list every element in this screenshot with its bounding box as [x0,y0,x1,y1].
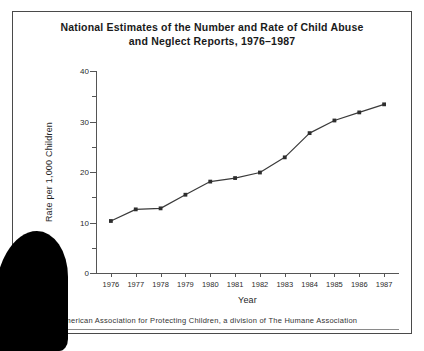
x-tick-label: 1986 [351,280,368,289]
y-tick-label: 20 [80,168,89,177]
chart-title-line-2: and Neglect Reports, 1976–1987 [13,34,411,48]
x-tick [334,273,335,277]
x-tick [235,273,236,277]
data-point [208,180,212,184]
data-point [308,131,312,135]
data-point [134,207,138,211]
x-tick-label: 1984 [301,280,318,289]
x-tick-label: 1977 [127,280,144,289]
source-note: : American Association for Protecting Ch… [55,316,357,325]
x-tick-label: 1978 [152,280,169,289]
data-point [159,206,163,210]
x-tick-label: 1985 [326,280,343,289]
x-tick-label: 1976 [103,280,120,289]
x-tick [384,273,385,277]
x-tick [111,273,112,277]
x-tick-label: 1987 [376,280,393,289]
x-tick [260,273,261,277]
y-axis-title: Rate per 1,000 Children [44,122,54,222]
x-tick [161,273,162,277]
data-point [283,155,287,159]
y-tick-label: 30 [80,117,89,126]
x-tick-label: 1980 [202,280,219,289]
x-tick-label: 1983 [276,280,293,289]
x-tick [285,273,286,277]
data-point [233,176,237,180]
x-axis-line [96,273,399,274]
data-point [382,102,386,106]
y-tick-label: 0 [85,269,89,278]
x-tick [136,273,137,277]
x-tick [210,273,211,277]
series-line [111,104,384,221]
data-point [109,219,113,223]
x-tick [185,273,186,277]
y-tick-label: 40 [80,67,89,76]
y-tick-label: 10 [80,218,89,227]
series-markers [109,102,386,222]
data-point [258,171,262,175]
chart-title-line-1: National Estimates of the Number and Rat… [13,20,411,34]
x-tick [310,273,311,277]
x-tick-label: 1981 [227,280,244,289]
data-point [333,119,337,123]
chart-figure: National Estimates of the Number and Rat… [12,11,412,334]
y-tick-major [90,273,96,274]
data-point [357,111,361,115]
x-tick-label: 1979 [177,280,194,289]
x-tick [359,273,360,277]
x-tick-label: 1982 [252,280,269,289]
plot-area: 010203040 197619771978197919801981198219… [96,71,399,273]
x-axis-title: Year [96,295,399,305]
chart-title: National Estimates of the Number and Rat… [13,20,411,48]
source-divider [27,329,399,330]
data-point [184,193,188,197]
data-series [96,71,399,273]
